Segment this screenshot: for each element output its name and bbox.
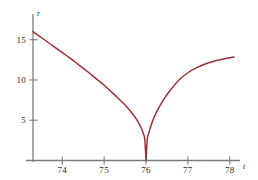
x-tick-label: 76 bbox=[141, 166, 151, 175]
axes-group bbox=[26, 14, 240, 162]
x-tick-label: 75 bbox=[99, 166, 109, 175]
data-curve-r-of-t bbox=[33, 32, 234, 161]
y-tick-label: 5 bbox=[10, 116, 26, 125]
x-tick-label: 74 bbox=[57, 166, 67, 175]
x-tick-label: 77 bbox=[183, 166, 193, 175]
x-tick-label: 78 bbox=[225, 166, 235, 175]
y-axis-label: r bbox=[37, 10, 40, 18]
y-tick-label: 10 bbox=[10, 75, 26, 84]
x-axis-label: t bbox=[243, 163, 245, 171]
y-tick-label: 15 bbox=[10, 35, 26, 44]
plot-canvas bbox=[0, 0, 258, 180]
chart-figure: 7475767778 51015 r t bbox=[0, 0, 258, 180]
